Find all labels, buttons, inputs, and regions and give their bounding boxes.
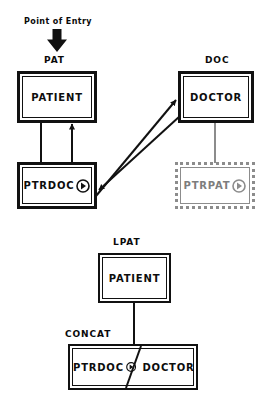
entity-label-doctor: DOCTOR [190, 92, 242, 103]
connector-doctor-to-ptrdoc-arrow [99, 116, 180, 190]
pat-tag: PAT [44, 55, 65, 66]
diagram-canvas: Point of Entry PAT DOC PATIENT DOCTOR PT… [0, 0, 268, 409]
pointer-circle-icon [232, 179, 246, 193]
connector-ptrdoc-to-doctor-arrow [96, 100, 176, 196]
entity-label-patient: PATIENT [31, 92, 83, 103]
point-of-entry-label: Point of Entry [24, 16, 92, 27]
doc-tag: DOC [205, 55, 229, 66]
entity-label-concat-ptrdoc: PTRDOC [73, 362, 124, 373]
down-arrow-icon [44, 28, 70, 54]
pointer-circle-icon [76, 179, 90, 193]
concat-left-cell: PTRDOC [73, 346, 136, 388]
entity-label-ptrdoc: PTRDOC [24, 180, 75, 191]
pointer-circle-icon [126, 360, 136, 374]
entity-box-ptrdoc[interactable]: PTRDOC [17, 162, 97, 209]
concat-tag: CONCAT [65, 329, 111, 340]
entity-label-concat-doctor: DOCTOR [143, 362, 195, 373]
concat-right-cell: DOCTOR [140, 346, 197, 388]
entity-label-ptrpat: PTRPAT [184, 180, 231, 191]
entity-box-patient-lpat[interactable]: PATIENT [98, 253, 171, 303]
entity-box-doctor-doc[interactable]: DOCTOR [178, 71, 254, 123]
entity-box-patient-pat[interactable]: PATIENT [17, 71, 97, 123]
entity-label-patient-lpat: PATIENT [109, 273, 161, 284]
lpat-tag: LPAT [113, 237, 141, 248]
entity-box-concat[interactable]: PTRDOC DOCTOR [68, 344, 198, 390]
entity-box-ptrpat[interactable]: PTRPAT [175, 162, 255, 209]
